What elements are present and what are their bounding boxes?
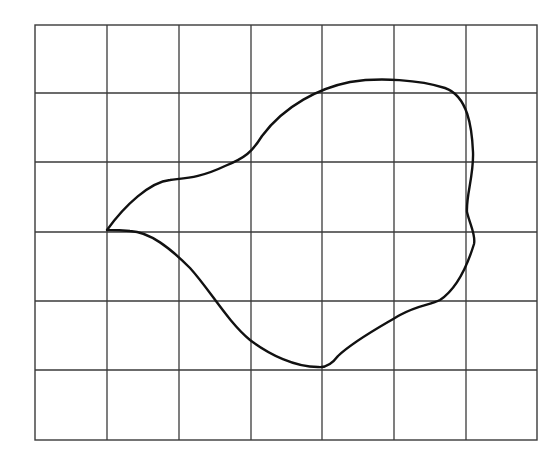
grid-diagram — [0, 0, 560, 463]
irregular-closed-shape — [107, 80, 474, 368]
grid-lines — [35, 25, 537, 440]
